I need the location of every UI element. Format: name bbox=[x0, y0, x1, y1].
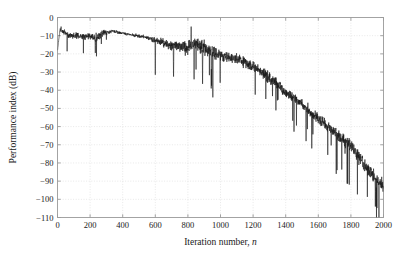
y-tick-label: −50 bbox=[40, 103, 53, 113]
x-tick-label: 1800 bbox=[342, 220, 359, 230]
x-tick-label: 400 bbox=[116, 220, 129, 230]
x-tick-label: 1000 bbox=[212, 220, 229, 230]
x-tick-label: 1200 bbox=[245, 220, 262, 230]
y-tick-label: −30 bbox=[40, 67, 53, 77]
x-tick-label: 600 bbox=[149, 220, 162, 230]
x-tick-label: 200 bbox=[84, 220, 97, 230]
x-tick-label: 0 bbox=[55, 220, 59, 230]
figure-container: 0200400600800100012001400160018002000 0−… bbox=[0, 0, 410, 260]
x-axis-title-text: Iteration number, n bbox=[184, 237, 257, 247]
x-tick-label: 1400 bbox=[277, 220, 294, 230]
y-tick-label: −40 bbox=[40, 85, 53, 95]
x-tick-label: 800 bbox=[182, 220, 195, 230]
x-tick-label: 1600 bbox=[310, 220, 327, 230]
y-tick-label: −100 bbox=[36, 194, 54, 204]
y-tick-label: −90 bbox=[40, 176, 53, 186]
x-tick-label: 2000 bbox=[375, 220, 392, 230]
performance-index-chart: 0200400600800100012001400160018002000 0−… bbox=[0, 0, 410, 260]
y-tick-label: −110 bbox=[36, 213, 53, 223]
y-tick-label: −80 bbox=[40, 158, 53, 168]
y-tick-label: −70 bbox=[40, 140, 53, 150]
y-tick-label: −60 bbox=[40, 122, 53, 132]
y-tick-label: −10 bbox=[40, 31, 53, 41]
y-tick-label: −20 bbox=[40, 49, 53, 59]
y-axis-title: Performance index (dB) bbox=[8, 72, 19, 164]
x-axis-title: Iteration number, n bbox=[184, 237, 257, 247]
y-tick-label: 0 bbox=[49, 13, 53, 23]
